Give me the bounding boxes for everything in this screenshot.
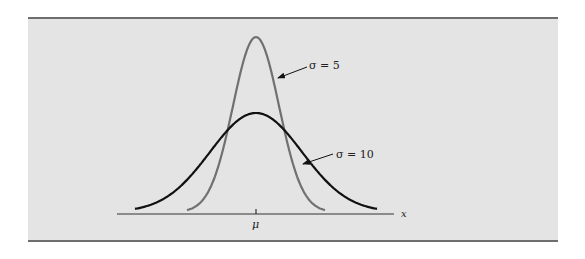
label-mu: μ: [252, 218, 259, 231]
curve-sigma-5: [187, 37, 325, 210]
label-x-axis: x: [401, 208, 407, 219]
label-sigma-5: σ = 5: [309, 59, 340, 72]
label-sigma-10: σ = 10: [336, 148, 374, 161]
arrow-sigma-5: [278, 67, 307, 78]
normal-curves-plot: σ = 5 σ = 10 μ x: [0, 0, 585, 259]
